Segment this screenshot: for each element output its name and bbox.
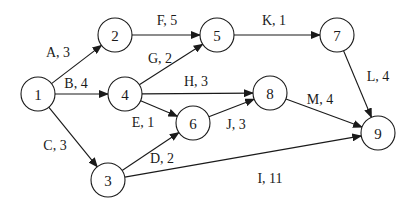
arrow-icon	[209, 99, 254, 117]
edge-label-k: K, 1	[262, 13, 286, 28]
arrow-icon	[142, 93, 253, 94]
edge-l	[344, 51, 372, 118]
node-label: 3	[104, 173, 112, 189]
node-label: 2	[111, 28, 119, 44]
node-label: 5	[213, 28, 221, 44]
node-6: 6	[176, 106, 210, 140]
nodes-layer: 123456789	[21, 18, 395, 197]
edge-label-c: C, 3	[43, 138, 66, 153]
node-2: 2	[98, 18, 132, 52]
node-9: 9	[361, 116, 395, 150]
edge-label-i: I, 11	[257, 171, 282, 186]
node-label: 8	[266, 86, 274, 102]
edge-label-m: M, 4	[307, 92, 333, 107]
edge-label-j: J, 3	[226, 117, 245, 132]
edge-label-d: D, 2	[150, 151, 174, 166]
node-7: 7	[320, 18, 354, 52]
arrow-icon	[344, 51, 372, 118]
node-3: 3	[91, 163, 125, 197]
edge-label-g: G, 2	[148, 51, 172, 66]
node-8: 8	[253, 76, 287, 110]
node-label: 6	[189, 116, 197, 132]
edge-label-h: H, 3	[184, 74, 208, 89]
edge-label-e: E, 1	[132, 115, 155, 130]
edge-label-f: F, 5	[157, 13, 178, 28]
node-label: 7	[333, 28, 341, 44]
node-label: 1	[34, 87, 42, 103]
node-1: 1	[21, 77, 55, 111]
node-5: 5	[200, 18, 234, 52]
node-label: 4	[121, 87, 129, 103]
edge-label-b: B, 4	[64, 76, 87, 91]
edge-label-a: A, 3	[46, 45, 70, 60]
edge-label-l: L, 4	[367, 69, 390, 84]
node-4: 4	[108, 77, 142, 111]
node-label: 9	[374, 126, 382, 142]
edge-h	[142, 93, 253, 94]
network-diagram: 123456789 A, 3B, 4C, 3D, 2E, 1F, 5G, 2H,…	[0, 0, 415, 207]
edge-j	[209, 99, 254, 117]
